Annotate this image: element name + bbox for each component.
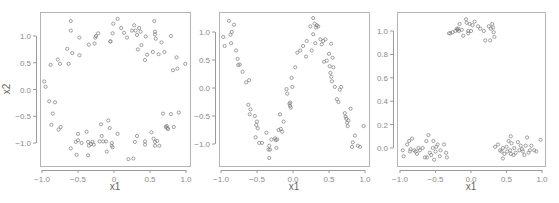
y-tick-label: 0.5 — [20, 59, 32, 68]
data-point — [275, 146, 278, 149]
x-axis-title: x1 — [110, 181, 121, 192]
data-point — [69, 29, 72, 32]
data-point — [492, 31, 495, 34]
data-point — [296, 51, 299, 54]
x-tick-label: −1.0 — [392, 175, 408, 184]
data-point — [247, 103, 250, 106]
data-point — [265, 131, 268, 134]
data-point — [501, 146, 504, 149]
data-point — [493, 35, 496, 38]
data-point — [489, 39, 492, 42]
data-point — [143, 59, 146, 62]
data-point — [69, 147, 72, 150]
x-tick-label: −0.5 — [428, 175, 444, 184]
data-point — [116, 132, 119, 135]
data-point — [146, 53, 149, 56]
data-point — [177, 111, 180, 114]
data-point — [343, 112, 346, 115]
data-point — [132, 157, 135, 160]
data-point — [85, 130, 88, 133]
y-tick-label: 0.0 — [199, 84, 211, 93]
x-tick-label: 0.5 — [323, 175, 335, 184]
x-tick-label: −1.0 — [213, 175, 229, 184]
plot-frame — [398, 13, 546, 167]
data-point — [140, 44, 143, 47]
x-tick-label: −0.5 — [249, 175, 265, 184]
data-point — [425, 156, 428, 159]
data-point — [406, 143, 409, 146]
y-tick-label: 1.0 — [20, 32, 32, 41]
data-point — [143, 140, 146, 143]
data-point — [530, 144, 533, 147]
data-point — [56, 58, 59, 61]
y-tick-label: −1.0 — [194, 140, 210, 149]
data-point — [253, 114, 256, 117]
data-point — [107, 119, 110, 122]
data-point — [491, 22, 494, 25]
data-point — [312, 33, 315, 36]
data-point — [494, 145, 497, 148]
data-point — [302, 44, 305, 47]
data-point — [43, 80, 46, 83]
data-point — [136, 48, 139, 51]
data-point — [294, 66, 297, 69]
data-point — [111, 32, 114, 35]
data-point — [76, 132, 79, 135]
data-point — [501, 157, 504, 160]
data-point — [514, 151, 517, 154]
data-point — [50, 123, 53, 126]
data-point — [503, 152, 506, 155]
data-point — [152, 137, 155, 140]
data-point — [281, 130, 284, 133]
data-point — [98, 140, 101, 143]
data-point — [462, 34, 465, 37]
data-point — [157, 53, 160, 56]
scatter-figure: −1.0−0.500.51.0x11.00.50.0−0.5−1.0x2 −1.… — [0, 0, 559, 203]
data-point — [304, 55, 307, 58]
data-point — [69, 19, 72, 22]
data-point — [163, 50, 166, 53]
data-point — [524, 144, 527, 147]
data-point — [171, 69, 174, 72]
data-point — [169, 34, 172, 37]
data-point — [51, 112, 54, 115]
data-point — [127, 158, 130, 161]
data-point — [313, 22, 316, 25]
data-point — [75, 153, 78, 156]
data-point — [496, 143, 499, 146]
data-point — [320, 43, 323, 46]
data-point — [256, 127, 259, 130]
data-point — [66, 47, 69, 50]
data-point — [299, 49, 302, 52]
data-point — [408, 139, 411, 142]
x-tick-label: 1.0 — [180, 175, 192, 184]
data-point — [523, 153, 526, 156]
data-point — [471, 24, 474, 27]
data-point — [362, 125, 365, 128]
data-point — [473, 20, 476, 23]
data-point — [290, 76, 293, 79]
data-point — [87, 140, 90, 143]
data-point — [433, 158, 436, 161]
x-tick-label: 1.0 — [536, 175, 548, 184]
data-point — [425, 139, 428, 142]
data-point — [134, 29, 137, 32]
data-point — [427, 134, 430, 137]
data-point — [505, 145, 508, 148]
data-point — [285, 88, 288, 91]
data-point — [509, 135, 512, 138]
data-point — [337, 100, 340, 103]
data-point — [434, 150, 437, 153]
data-point — [322, 39, 325, 42]
data-point — [49, 63, 52, 66]
data-point — [232, 23, 235, 26]
y-tick-label: −1.0 — [15, 139, 31, 148]
y-tick-label: 1.0 — [377, 27, 389, 36]
data-point — [58, 62, 61, 65]
plot-frame — [220, 13, 370, 167]
data-point — [235, 49, 238, 52]
plot-frame — [41, 13, 191, 167]
data-point — [130, 29, 133, 32]
data-point — [346, 125, 349, 128]
data-point — [144, 35, 147, 38]
